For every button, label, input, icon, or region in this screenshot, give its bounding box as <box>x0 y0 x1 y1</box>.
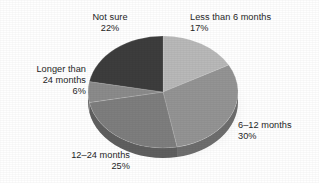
slice-label-12-24-months-name: 12–24 months <box>26 150 130 161</box>
slice-label-not-sure: Not sure 22% <box>62 12 158 34</box>
slice-label-not-sure-value: 22% <box>62 23 158 34</box>
pie-slices-group <box>88 36 238 158</box>
slice-label-not-sure-name: Not sure <box>62 12 158 23</box>
slice-label-6-12-months-value: 30% <box>238 131 319 142</box>
slice-label-less-than-6-months-name: Less than 6 months <box>190 12 310 23</box>
slice-label-longer-than-24-months: Longer than 24 months 6% <box>2 64 86 98</box>
slice-label-longer-than-24-months-name-line2: 24 months <box>2 75 86 86</box>
slice-label-12-24-months: 12–24 months 25% <box>26 150 130 172</box>
pie-chart-figure: Not sure 22% Less than 6 months 17% Long… <box>0 0 319 183</box>
slice-label-12-24-months-value: 25% <box>26 161 130 172</box>
slice-label-longer-than-24-months-name-line1: Longer than <box>2 64 86 75</box>
slice-label-less-than-6-months: Less than 6 months 17% <box>190 12 310 34</box>
slice-label-longer-than-24-months-value: 6% <box>2 86 86 97</box>
slice-label-6-12-months: 6–12 months 30% <box>238 120 319 142</box>
slice-label-6-12-months-name: 6–12 months <box>238 120 319 131</box>
slice-label-less-than-6-months-value: 17% <box>190 23 310 34</box>
